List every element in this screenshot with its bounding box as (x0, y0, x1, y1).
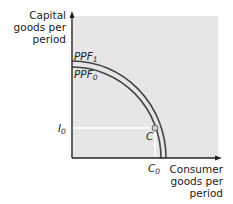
ppf1-label: PPF1 (74, 50, 97, 62)
point-c-label: C (146, 130, 153, 142)
ppf-diagram: Capital goods per period Consumer goods … (0, 0, 233, 204)
x-axis-arrow-icon (215, 156, 222, 161)
i0-label: I0 (58, 122, 66, 134)
c0-label: C0 (148, 162, 160, 174)
y-axis-arrow-icon (70, 11, 75, 18)
x-axis-label: Consumer goods per period (168, 163, 223, 199)
y-axis-label: Capital goods per period (6, 9, 66, 45)
ppf0-label: PPF0 (74, 68, 97, 80)
